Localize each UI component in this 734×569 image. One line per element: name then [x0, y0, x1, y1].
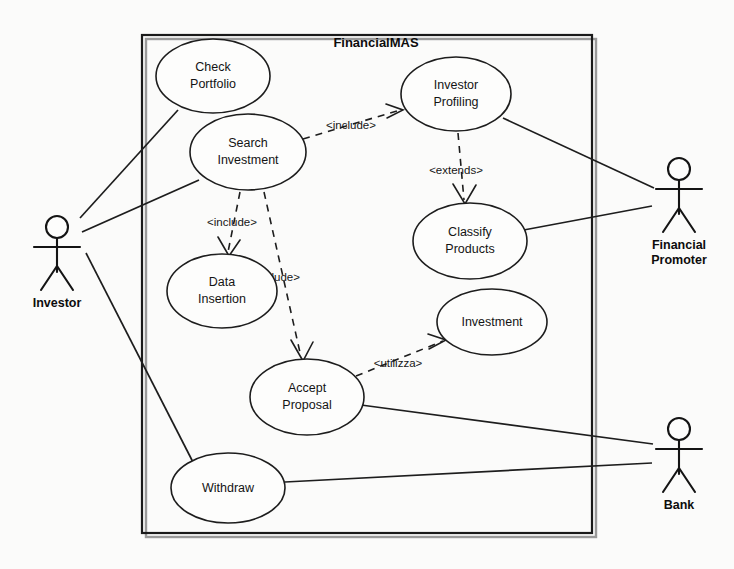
actor-head-icon [668, 158, 690, 180]
use-case-label-line1: Check [195, 60, 231, 74]
use-case-ellipse[interactable] [250, 359, 364, 435]
actor-head-icon [46, 216, 68, 238]
use-case-ellipse[interactable] [413, 203, 527, 279]
use-case-label-line2: Products [445, 242, 494, 256]
assoc-investor-check-portfolio [80, 110, 178, 218]
use-case-search-investment[interactable]: Search Investment [190, 114, 306, 190]
actor-leg-left-icon [663, 468, 679, 492]
use-case-label-line1: Search [228, 136, 268, 150]
arrowhead-search-to-accept-proposal [291, 340, 313, 361]
stereotype-include-data-insertion: <include> [207, 216, 257, 228]
use-case-check-portfolio[interactable]: Check Portfolio [156, 39, 270, 113]
stereotype-include-investor-profiling: <include> [326, 119, 376, 131]
actor-leg-left-icon [41, 266, 57, 290]
use-case-label-line1: Investment [461, 315, 523, 329]
association-lines [80, 110, 654, 482]
actor-label-line1: Investor [33, 296, 82, 310]
actor-bank[interactable]: Bank [656, 418, 702, 512]
actor-financial-promoter[interactable]: Financial Promoter [651, 158, 707, 267]
use-case-label-line2: Insertion [198, 292, 246, 306]
assoc-promoter-investor-profiling [503, 118, 654, 188]
use-case-label-line2: Investment [217, 153, 279, 167]
actor-head-icon [668, 418, 690, 440]
assoc-bank-accept-proposal [361, 405, 653, 444]
assoc-promoter-classify-products [513, 206, 652, 232]
arrowhead-profiling-to-classify [453, 184, 476, 204]
use-case-diagram: FinancialMAS [0, 0, 734, 569]
use-case-ellipse[interactable] [190, 114, 306, 190]
stereotype-utilizza-investment: <utilizza> [374, 357, 423, 369]
use-case-ellipse[interactable] [167, 254, 277, 328]
actor-label-line1: Financial [652, 238, 706, 252]
use-case-label-line1: Investor [434, 78, 478, 92]
actor-investor[interactable]: Investor [33, 216, 82, 310]
actor-label-line1: Bank [664, 498, 695, 512]
actor-leg-left-icon [663, 208, 679, 232]
actor-label-line2: Promoter [651, 253, 707, 267]
actor-leg-right-icon [57, 266, 73, 290]
use-case-classify-products[interactable]: Classify Products [413, 203, 527, 279]
use-case-withdraw[interactable]: Withdraw [171, 453, 285, 523]
use-case-label-line2: Portfolio [190, 77, 236, 91]
use-case-ellipse[interactable] [401, 57, 511, 131]
use-case-label-line1: Classify [448, 225, 493, 239]
actor-leg-right-icon [679, 208, 695, 232]
actor-leg-right-icon [679, 468, 695, 492]
use-case-label-line2: Proposal [282, 398, 331, 412]
use-case-investor-profiling[interactable]: Investor Profiling [401, 57, 511, 131]
assoc-investor-search-investment [82, 180, 199, 232]
use-case-label-line2: Profiling [433, 95, 478, 109]
diagram-canvas: FinancialMAS [0, 0, 734, 569]
system-boundary-title: FinancialMAS [333, 35, 419, 50]
use-case-accept-proposal[interactable]: Accept Proposal [250, 359, 364, 435]
use-case-investment[interactable]: Investment [437, 289, 547, 355]
use-case-label-line1: Accept [288, 381, 327, 395]
use-case-data-insertion[interactable]: Data Insertion [167, 254, 277, 328]
use-case-label-line1: Data [209, 275, 235, 289]
use-case-label-line1: Withdraw [202, 481, 255, 495]
use-case-ellipse[interactable] [156, 39, 270, 113]
stereotype-extends-classify-products: <extends> [429, 164, 483, 176]
